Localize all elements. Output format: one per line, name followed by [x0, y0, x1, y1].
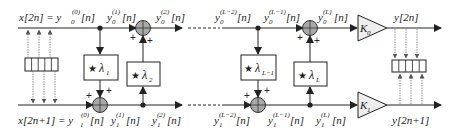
adder-1: [93, 98, 108, 113]
svg-text:[n]: [n]: [237, 11, 251, 23]
svg-text:+: +: [106, 85, 112, 96]
svg-text:(L): (L): [321, 111, 330, 119]
svg-text:0: 0: [269, 18, 273, 26]
svg-text:(2): (2): [157, 111, 166, 119]
signal-label-y0-1: y 0 (1) [n]: [106, 8, 136, 26]
svg-text:x[2n] = y: x[2n] = y: [18, 11, 61, 23]
svg-text:2: 2: [149, 76, 153, 84]
signal-label-y1-2: y 1 (2) [n]: [151, 111, 181, 129]
svg-text:0: 0: [367, 29, 371, 37]
svg-text:(L): (L): [323, 8, 332, 16]
svg-text:[n]: [n]: [236, 114, 250, 126]
svg-text:(L−2): (L−2): [220, 8, 237, 16]
svg-text:1: 1: [106, 69, 110, 77]
svg-text:(L−2): (L−2): [219, 111, 236, 119]
svg-text:0: 0: [71, 18, 75, 26]
svg-text:(0): (0): [72, 8, 81, 16]
svg-text:[n]: [n]: [167, 114, 181, 126]
svg-text:1: 1: [80, 121, 84, 129]
signal-label-y0-L: y 0 (L) [n]: [317, 8, 348, 26]
svg-text:0: 0: [161, 18, 165, 26]
svg-text:0: 0: [112, 18, 116, 26]
adder-2: [136, 21, 151, 36]
svg-text:λ: λ: [308, 68, 314, 82]
adder-Lm1: [251, 98, 266, 113]
svg-text:[n]: [n]: [286, 11, 300, 23]
svg-text:(0): (0): [81, 111, 90, 119]
svg-text:+: +: [130, 32, 136, 43]
svg-text:1: 1: [116, 121, 120, 129]
svg-text:(L−1): (L−1): [273, 111, 290, 119]
signal-label-y1-Lm2: y 1 (L−2) [n]: [213, 111, 250, 129]
svg-text:+: +: [297, 32, 303, 43]
svg-text:λ: λ: [254, 61, 260, 75]
svg-text:(1): (1): [112, 8, 121, 16]
svg-text:+: +: [264, 85, 270, 96]
signal-label-y0-2: y 0 (2) [n]: [155, 8, 185, 26]
svg-text:x[2n+1] = y: x[2n+1] = y: [17, 114, 73, 126]
svg-text:L: L: [315, 76, 320, 84]
svg-text:+: +: [244, 90, 250, 101]
svg-text:(2): (2): [161, 8, 170, 16]
output-merge-buffer: [392, 29, 426, 104]
output-label-top: y[2n]: [393, 11, 418, 23]
svg-text:★: ★: [244, 63, 253, 74]
svg-text:(L−1): (L−1): [269, 8, 286, 16]
svg-text:0: 0: [323, 18, 327, 26]
adder-signs: + + + + + + + +: [86, 32, 320, 101]
svg-text:[n]: [n]: [81, 11, 95, 23]
output-label-bottom: y[2n+1]: [391, 114, 429, 126]
svg-text:★: ★: [131, 70, 140, 81]
lifting-diagram: + + + + + + + + ★ λ 1 ★ λ 2 ★ λ L−1 ★ λ …: [0, 0, 456, 133]
svg-text:1: 1: [219, 121, 223, 129]
svg-text:(1): (1): [116, 111, 125, 119]
input-label-top: x[2n] = y 0 (0) [n]: [18, 8, 95, 26]
svg-text:[n]: [n]: [126, 114, 140, 126]
svg-text:λ: λ: [98, 61, 104, 75]
input-label-bottom: x[2n+1] = y 1 (0) [n]: [17, 111, 104, 129]
svg-text:[n]: [n]: [334, 11, 348, 23]
adder-L: [303, 21, 318, 36]
signal-label-y1-L: y 1 (L) [n]: [315, 111, 346, 129]
svg-text:[n]: [n]: [290, 114, 304, 126]
svg-text:λ: λ: [141, 68, 147, 82]
svg-text:[n]: [n]: [332, 114, 346, 126]
svg-text:1: 1: [157, 121, 161, 129]
svg-text:1: 1: [367, 106, 371, 114]
svg-text:+: +: [314, 35, 320, 46]
signal-label-y1-1: y 1 (1) [n]: [110, 111, 140, 129]
svg-text:0: 0: [220, 18, 224, 26]
signal-label-y1-Lm1: y 1 (L−1) [n]: [267, 111, 304, 129]
svg-text:[n]: [n]: [90, 114, 104, 126]
input-split-buffer: [25, 30, 58, 103]
svg-text:[n]: [n]: [122, 11, 136, 23]
svg-text:★: ★: [88, 63, 97, 74]
svg-text:+: +: [147, 35, 153, 46]
svg-text:1: 1: [273, 121, 277, 129]
svg-text:+: +: [86, 90, 92, 101]
svg-text:[n]: [n]: [171, 11, 185, 23]
svg-text:L−1: L−1: [261, 69, 274, 77]
svg-text:1: 1: [321, 121, 325, 129]
svg-text:★: ★: [298, 70, 307, 81]
signal-label-y0-Lm2: y 0 (L−2) [n]: [214, 8, 251, 26]
signal-label-y0-Lm1: y 0 (L−1) [n]: [263, 8, 300, 26]
